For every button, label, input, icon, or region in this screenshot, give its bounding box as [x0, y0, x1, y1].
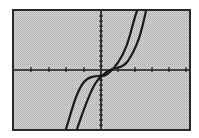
calculator-graph-screen: Graphing calculator display: two transla…: [0, 0, 199, 138]
graph-svg: [0, 0, 199, 138]
